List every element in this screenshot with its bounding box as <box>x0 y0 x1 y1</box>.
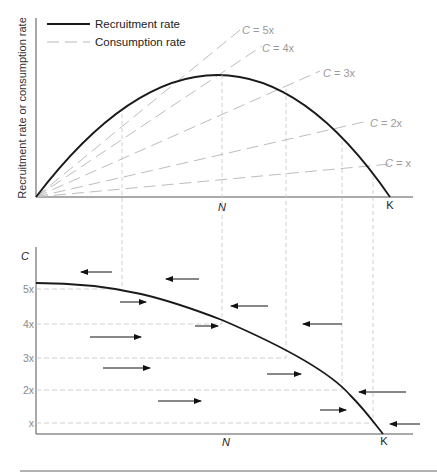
consumption-line-4x <box>36 46 262 197</box>
y-tick-1x: x <box>29 417 35 429</box>
isocline-curve <box>36 283 383 434</box>
consumption-line-5x <box>36 30 240 197</box>
consumption-line-1x <box>36 164 390 197</box>
bottom-x-label-n: N <box>222 436 230 448</box>
y-tick-2x: 2x <box>23 384 35 396</box>
legend-recruitment-label: Recruitment rate <box>95 18 180 30</box>
top-plot: Recruitment rate or consumption rate Rec… <box>16 17 413 213</box>
y-tick-3x: 3x <box>23 352 35 364</box>
legend-consumption-label: Consumption rate <box>95 36 186 48</box>
bottom-y-axis-label: C <box>21 250 29 262</box>
drop-lines <box>122 75 373 423</box>
y-tick-5x: 5x <box>23 283 35 295</box>
horizontal-guides <box>36 289 373 423</box>
flow-arrows <box>81 272 420 424</box>
label-c-5x: C = 5x <box>242 24 275 36</box>
diagram-canvas: Recruitment rate or consumption rate Rec… <box>0 0 437 472</box>
label-c-1x: C = x <box>385 157 411 169</box>
y-tick-4x: 4x <box>23 318 35 330</box>
label-c-4x: C = 4x <box>262 42 295 54</box>
top-y-axis-label: Recruitment rate or consumption rate <box>16 17 28 199</box>
consumption-line-2x <box>36 121 368 197</box>
bottom-plot: C 5x 4x 3x 2x x <box>21 247 420 448</box>
recruitment-curve <box>36 75 390 197</box>
label-c-3x: C = 3x <box>323 67 356 79</box>
consumption-lines <box>36 30 390 197</box>
label-c-2x: C = 2x <box>370 117 403 129</box>
bottom-x-label-k: K <box>380 435 388 447</box>
top-x-label-k: K <box>386 199 394 211</box>
